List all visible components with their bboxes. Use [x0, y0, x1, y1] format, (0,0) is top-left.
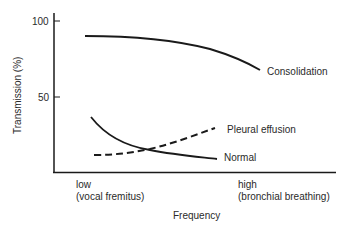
x-axis-label: Frequency [173, 210, 220, 221]
label-consolidation: Consolidation [267, 66, 328, 77]
label-pleural-effusion: Pleural effusion [227, 124, 296, 135]
y-axis-label: Transmission (%) [12, 57, 23, 134]
line-normal [91, 117, 217, 159]
y-tick-label-50: 50 [38, 92, 50, 103]
line-consolidation [85, 36, 260, 70]
x-label-high-sub: (bronchial breathing) [238, 191, 330, 202]
y-tick-label-100: 100 [32, 16, 49, 27]
x-label-low-sub: (vocal fremitus) [76, 191, 144, 202]
x-label-low: low [76, 179, 92, 190]
label-normal: Normal [224, 152, 256, 163]
chart: 100 50 Transmission (%) Consolidation No… [0, 0, 347, 233]
x-label-high: high [238, 179, 257, 190]
